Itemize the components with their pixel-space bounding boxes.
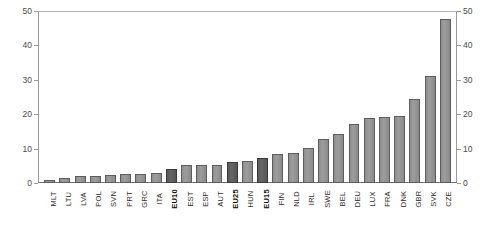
bar-lva (75, 176, 86, 183)
bar-eu10 (166, 169, 177, 183)
y-tick-mark-right (457, 114, 461, 115)
x-label-slot: SWE (316, 185, 331, 233)
x-tick-label-bel: BEL (339, 192, 347, 207)
y-tick-mark-right (457, 80, 461, 81)
bar-slot (118, 12, 133, 183)
bar-hun (242, 161, 253, 183)
bar-fra (379, 117, 390, 183)
x-label-slot: LTU (57, 185, 72, 233)
bar-series (39, 12, 456, 183)
bar-slot (377, 12, 392, 183)
bar-slot (270, 12, 285, 183)
bar-slot (362, 12, 377, 183)
bar-svn (105, 175, 116, 183)
bar-esp (196, 165, 207, 183)
x-tick-label-gbr: GBR (415, 191, 423, 208)
x-tick-label-ltu: LTU (65, 192, 73, 206)
x-tick-label-deu: DEU (354, 191, 362, 207)
x-tick-label-eu25: EU25 (232, 189, 240, 209)
x-label-slot: LVA (72, 185, 87, 233)
x-tick-label-irl: IRL (308, 193, 316, 205)
x-tick-label-svk: SVK (430, 191, 438, 207)
bar-slot (331, 12, 346, 183)
bar-slot (209, 12, 224, 183)
bar-gbr (409, 99, 420, 183)
x-tick-label-swe: SWE (324, 190, 332, 208)
bar-prt (120, 174, 131, 183)
bar-slot (225, 12, 240, 183)
bar-mlt (44, 180, 55, 183)
x-tick-label-eu15: EU15 (263, 189, 271, 209)
bar-slot (316, 12, 331, 183)
x-label-slot: IRL (301, 185, 316, 233)
bar-cze (440, 19, 451, 183)
x-tick-label-dnk: DNK (400, 191, 408, 207)
x-label-slot: SVN (103, 185, 118, 233)
x-label-slot: GRC (133, 185, 148, 233)
x-label-slot: EU25 (225, 185, 240, 233)
bar-slot (301, 12, 316, 183)
x-tick-label-mlt: MLT (50, 191, 58, 206)
bar-slot (255, 12, 270, 183)
x-label-slot: PRT (118, 185, 133, 233)
x-label-slot: MLT (42, 185, 57, 233)
x-label-slot: POL (88, 185, 103, 233)
x-label-slot: ESP (194, 185, 209, 233)
bar-slot (194, 12, 209, 183)
x-label-slot: NLD (286, 185, 301, 233)
x-label-slot: HUN (240, 185, 255, 233)
x-label-slot: DNK (392, 185, 407, 233)
bar-dnk (394, 116, 405, 183)
bar-grc (135, 174, 146, 183)
bar-chart: 01020304050 01020304050 MLTLTULVAPOLSVNP… (0, 0, 495, 234)
x-label-slot: DEU (346, 185, 361, 233)
x-label-slot: ITA (149, 185, 164, 233)
bar-slot (72, 12, 87, 183)
bar-ita (151, 173, 162, 183)
x-tick-label-ita: ITA (156, 193, 164, 205)
x-tick-label-prt: PRT (126, 191, 134, 206)
x-label-slot: GBR (407, 185, 422, 233)
y-tick-mark-right (457, 45, 461, 46)
x-label-slot: EU15 (255, 185, 270, 233)
bar-slot (88, 12, 103, 183)
bar-lux (364, 118, 375, 183)
bar-svk (425, 76, 436, 183)
bar-slot (422, 12, 437, 183)
x-tick-label-lux: LUX (369, 191, 377, 206)
x-tick-label-aut: AUT (217, 191, 225, 207)
bar-pol (90, 176, 101, 183)
bar-slot (392, 12, 407, 183)
bar-slot (103, 12, 118, 183)
x-label-slot: SVK (422, 185, 437, 233)
y-tick-label-right: 10 (463, 144, 487, 154)
x-label-slot: CZE (438, 185, 453, 233)
bar-fin (272, 154, 283, 183)
bar-slot (286, 12, 301, 183)
x-label-slot: FRA (377, 185, 392, 233)
bar-aut (212, 165, 223, 183)
x-tick-label-est: EST (187, 191, 195, 206)
bar-est (181, 165, 192, 183)
y-tick-label-right: 0 (463, 178, 487, 188)
x-label-slot: AUT (209, 185, 224, 233)
x-label-slot: EU10 (164, 185, 179, 233)
bar-slot (407, 12, 422, 183)
y-tick-mark-right (457, 183, 461, 184)
x-tick-label-nld: NLD (293, 191, 301, 207)
x-tick-label-fra: FRA (384, 191, 392, 207)
x-axis-labels: MLTLTULVAPOLSVNPRTGRCITAEU10ESTESPAUTEU2… (39, 185, 456, 233)
bar-nld (288, 153, 299, 183)
x-tick-label-eu10: EU10 (171, 189, 179, 209)
bar-slot (133, 12, 148, 183)
bar-eu25 (227, 162, 238, 183)
bar-slot (57, 12, 72, 183)
bar-slot (149, 12, 164, 183)
x-tick-label-cze: CZE (445, 191, 453, 207)
bar-irl (303, 148, 314, 183)
bar-slot (240, 12, 255, 183)
y-tick-label-right: 20 (463, 109, 487, 119)
y-tick-mark-right (457, 11, 461, 12)
y-tick-label-right: 50 (463, 6, 487, 16)
y-tick-label-right: 30 (463, 75, 487, 85)
